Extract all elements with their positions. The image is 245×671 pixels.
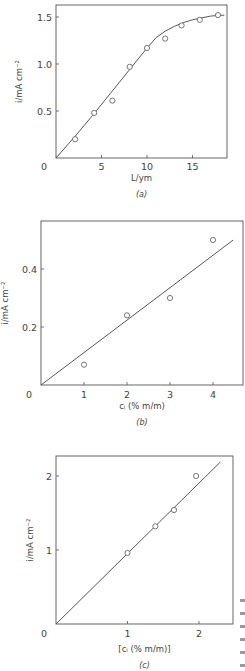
y-tick-label: 1.0 [37, 59, 52, 70]
data-point [92, 110, 97, 115]
data-point [81, 362, 86, 367]
y-tick-label: 2 [46, 471, 52, 482]
y-tick-label: 0.4 [22, 264, 37, 275]
data-point [179, 23, 184, 28]
data-point [125, 550, 130, 555]
chart-panel-c: 01212[cᵢ (% m/m)]i/mA cm⁻²(c) [25, 456, 233, 670]
panel-caption: (b) [136, 418, 147, 427]
x-axis-label: L/ym [131, 173, 152, 183]
panel-caption: (a) [136, 190, 147, 199]
x-tick-label: 4 [210, 389, 216, 400]
data-point [153, 524, 158, 529]
cropped-text-fragment [240, 664, 245, 667]
y-tick-label: 1.5 [37, 12, 52, 23]
fit-line [56, 462, 220, 624]
y-axis-label: i/mA cm⁻² [0, 282, 10, 325]
x-tick-label: 1 [124, 628, 130, 639]
cropped-text-fragment [240, 625, 245, 628]
x-tick-label: 3 [167, 389, 173, 400]
chart-panel-b: 012340.20.4cᵢ (% m/m)i/mA cm⁻²(b) [0, 221, 243, 427]
data-point [124, 313, 129, 318]
y-tick-label: 0.2 [22, 322, 37, 333]
data-point [210, 237, 215, 242]
y-tick-label: 1 [46, 545, 52, 556]
data-point [73, 137, 78, 142]
x-tick-label: 2 [124, 389, 130, 400]
data-point [197, 17, 202, 22]
chart-panel-a: 0510150.51.01.5L/ymi/mA cm⁻²(a) [14, 5, 227, 199]
data-point [110, 98, 115, 103]
cropped-text-fragment [240, 638, 245, 641]
x-axis-label: [cᵢ (% m/m)] [118, 644, 170, 654]
data-point [171, 507, 176, 512]
y-axis-label: i/mA cm⁻² [25, 519, 35, 562]
y-tick-label: 0.5 [37, 106, 52, 117]
x-tick-label: 1 [81, 389, 87, 400]
data-point [163, 36, 168, 41]
data-point [144, 45, 149, 50]
fit-line [56, 15, 224, 158]
y-axis-label: i/mA cm⁻² [14, 60, 24, 103]
data-point [215, 13, 220, 18]
fit-line [41, 240, 233, 385]
cropped-text-fragment [240, 651, 245, 654]
data-point [127, 64, 132, 69]
x-tick-label: 0 [41, 628, 47, 639]
plot-frame [56, 5, 227, 158]
x-tick-label: 10 [141, 161, 153, 172]
x-tick-label: 0 [41, 161, 47, 172]
cropped-text-fragment [240, 599, 245, 602]
figure-canvas: 0510150.51.01.5L/ymi/mA cm⁻²(a) 012340.2… [0, 0, 245, 671]
data-point [167, 295, 172, 300]
x-tick-label: 15 [186, 161, 198, 172]
x-axis-label: cᵢ (% m/m) [119, 401, 165, 411]
plot-frame [41, 221, 243, 385]
x-tick-label: 2 [196, 628, 202, 639]
x-tick-label: 0 [26, 389, 32, 400]
cropped-text-fragment [240, 612, 245, 615]
data-point [194, 473, 199, 478]
plot-frame [56, 456, 233, 624]
panel-caption: (c) [139, 661, 150, 670]
x-tick-label: 5 [98, 161, 104, 172]
